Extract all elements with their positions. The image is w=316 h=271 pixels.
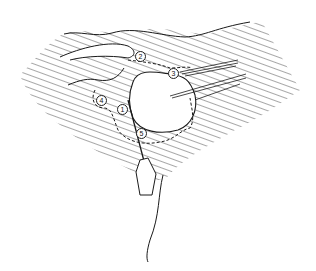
hatched-tissue [0,0,316,271]
label-3: 3 [168,68,179,79]
illustration [0,0,316,271]
label-5: 5 [136,128,147,139]
rounded-structure [130,72,196,132]
label-2: 2 [135,51,146,62]
label-1: 1 [117,104,128,115]
diagram: 1 2 3 4 5 [0,0,316,271]
label-4: 4 [96,95,107,106]
